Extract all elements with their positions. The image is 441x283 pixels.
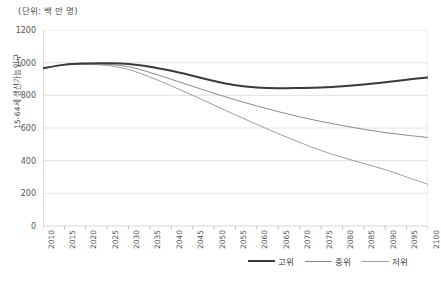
x-tick-label: 2100	[432, 230, 441, 249]
x-tick-label: 2015	[68, 230, 77, 249]
y-tick-label: 0	[31, 222, 36, 231]
y-tick-label: 1000	[16, 58, 36, 67]
x-tick-label: 2060	[260, 230, 269, 249]
x-tick-label: 2055	[239, 230, 248, 249]
plot-svg	[43, 30, 428, 232]
x-tick-label: 2095	[410, 230, 419, 249]
legend-label: 고위	[278, 255, 294, 267]
y-tick-label: 400	[21, 156, 36, 165]
x-tick-label: 2085	[367, 230, 376, 249]
x-tick-label: 2065	[282, 230, 291, 249]
x-tick-label: 2070	[303, 230, 312, 249]
y-axis-tick-labels: 120010008006004002000	[0, 30, 40, 226]
series-line-중위	[43, 64, 428, 138]
legend-item-고위[interactable]: 고위	[248, 255, 294, 267]
legend-item-중위[interactable]: 중위	[305, 255, 351, 267]
x-tick-label: 2010	[47, 230, 56, 249]
chart-unit-title: (단위: 백 만 명)	[18, 4, 78, 16]
x-tick-label: 2090	[389, 230, 398, 249]
y-tick-label: 800	[21, 91, 36, 100]
x-tick-label: 2040	[175, 230, 184, 249]
legend-line-swatch	[248, 260, 275, 262]
y-tick-label: 1200	[16, 26, 36, 35]
x-tick-label: 2075	[325, 230, 334, 249]
x-tick-label: 2035	[153, 230, 162, 249]
x-tick-label: 2080	[346, 230, 355, 249]
legend-label: 저위	[392, 255, 408, 267]
legend-item-저위[interactable]: 저위	[362, 255, 408, 267]
x-tick-label: 2045	[196, 230, 205, 249]
legend-line-swatch	[305, 261, 332, 262]
y-tick-label: 200	[21, 189, 36, 198]
series-line-저위	[43, 64, 428, 184]
x-tick-label: 2050	[218, 230, 227, 249]
series-line-고위	[43, 63, 428, 88]
x-tick-label: 2030	[132, 230, 141, 249]
x-tick-label: 2020	[89, 230, 98, 249]
chart-legend: 고위중위저위	[248, 255, 408, 267]
x-tick-label: 2025	[111, 230, 120, 249]
plot-area	[43, 30, 428, 226]
y-tick-label: 600	[21, 124, 36, 133]
legend-line-swatch	[362, 261, 389, 262]
legend-label: 중위	[335, 255, 351, 267]
